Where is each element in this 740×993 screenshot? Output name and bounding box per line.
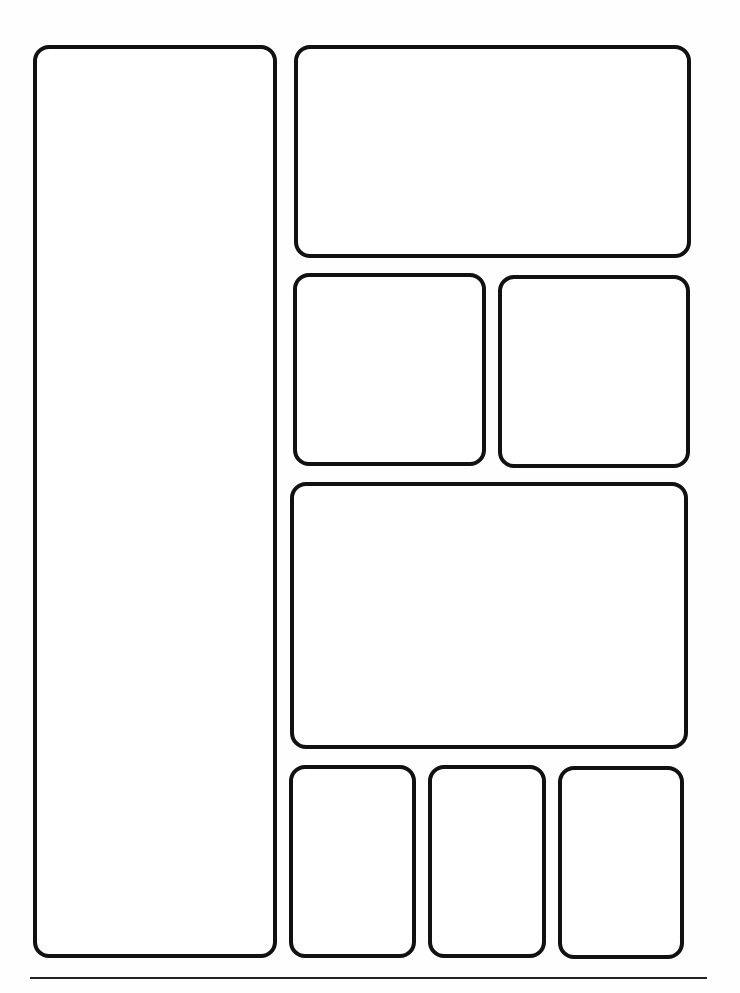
comic-panel-5 <box>290 482 688 749</box>
bottom-rule-line <box>30 977 707 979</box>
comic-panel-8 <box>558 766 684 959</box>
comic-panel-7 <box>428 765 546 958</box>
comic-panel-6 <box>289 765 416 958</box>
comic-panel-2 <box>294 45 691 258</box>
comic-panel-1 <box>33 45 277 958</box>
comic-panel-4 <box>498 275 690 468</box>
comic-panel-3 <box>293 273 486 466</box>
